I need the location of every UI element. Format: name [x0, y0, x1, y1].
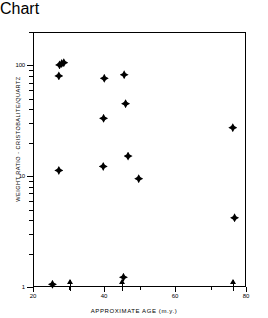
data-point — [54, 166, 63, 175]
x-axis-tick-label: 20 — [30, 293, 37, 299]
y-axis-tick-label: 1 — [3, 284, 25, 290]
plot-area — [33, 32, 246, 287]
data-point — [228, 123, 237, 132]
data-point — [100, 74, 109, 83]
x-axis-major-tick — [246, 287, 247, 292]
x-axis-major-tick — [33, 287, 34, 292]
data-point — [54, 71, 63, 80]
data-point — [99, 162, 108, 171]
data-point — [230, 213, 239, 222]
x-axis-tick-label: 60 — [172, 293, 179, 299]
data-point — [99, 114, 108, 123]
scatter-chart: WEIGHT RATIO - CRISTOBALITE/QUARTZ 11010… — [0, 18, 268, 318]
y-axis-tick-label: 10 — [3, 173, 25, 179]
x-axis-major-tick — [175, 287, 176, 292]
data-point — [121, 99, 130, 108]
x-axis-minor-tick — [211, 287, 212, 290]
x-axis-title: APPROXIMATE AGE (m.y.) — [0, 308, 268, 314]
data-point — [124, 152, 133, 161]
y-axis-tick-label: 100 — [3, 62, 25, 68]
lower-limit-arrow — [122, 280, 123, 291]
data-point — [48, 280, 57, 289]
data-point — [134, 174, 143, 183]
x-axis-minor-tick — [140, 287, 141, 290]
lower-limit-arrow — [233, 280, 234, 291]
y-axis-title: WEIGHT RATIO - CRISTOBALITE/QUARTZ — [15, 59, 21, 219]
x-axis-tick-label: 80 — [243, 293, 250, 299]
lower-limit-arrow — [70, 280, 71, 291]
x-axis-tick-label: 40 — [101, 293, 108, 299]
x-axis-major-tick — [104, 287, 105, 292]
data-point — [120, 70, 129, 79]
